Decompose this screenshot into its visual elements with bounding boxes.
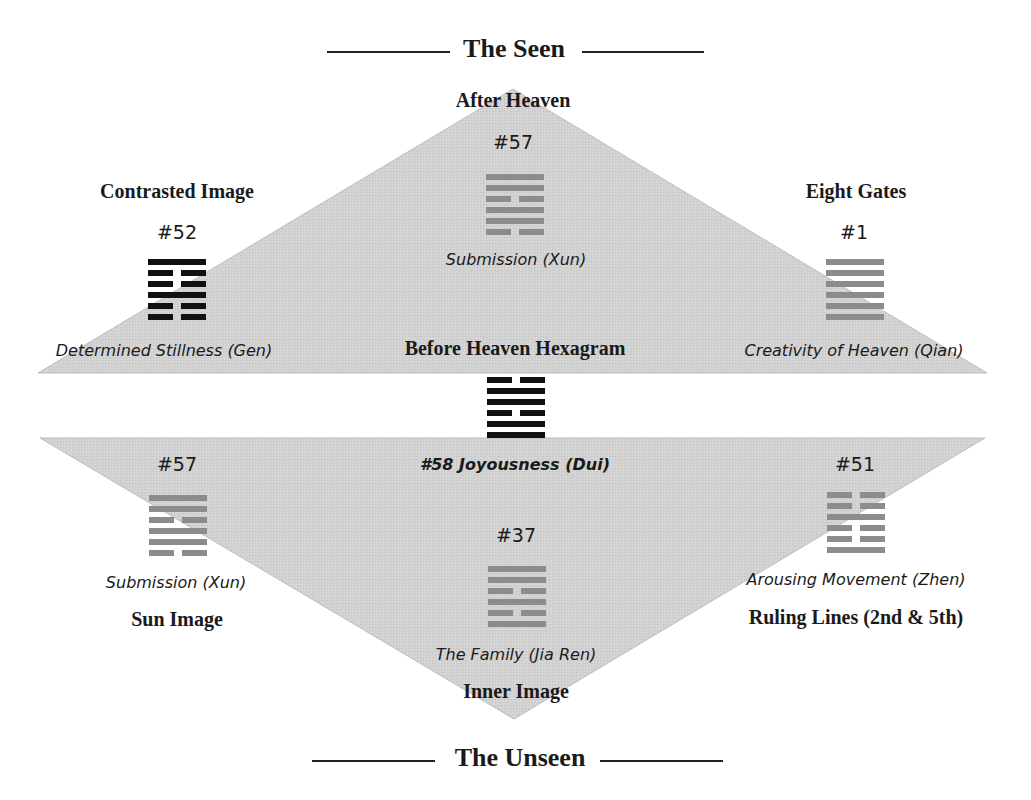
hexagram-name: Arousing Movement (Zhen): [746, 570, 965, 589]
hexagram-number: #57: [493, 131, 533, 153]
inner-image-label: Inner Image: [463, 680, 569, 703]
footer-rule-left: [312, 760, 435, 762]
before-heaven-label: Before Heaven Hexagram: [405, 337, 626, 360]
hexagram-number: #37: [496, 524, 536, 546]
hexagram-57-xun-sun: [149, 495, 207, 561]
header-rule-right: [582, 51, 704, 53]
hexagram-58-dui: [487, 377, 545, 443]
hexagram-51-zhen: [827, 492, 885, 558]
hexagram-37-jia-ren: [488, 566, 546, 632]
hexagram-number: #1: [840, 221, 868, 243]
contrasted-image-label: Contrasted Image: [100, 180, 254, 203]
header-rule-left: [327, 51, 450, 53]
hexagram-57-xun-top: [486, 174, 544, 240]
eight-gates-label: Eight Gates: [806, 180, 907, 203]
hexagram-1-qian: [826, 259, 884, 325]
hexagram-number: #57: [157, 453, 197, 475]
ruling-lines-label: Ruling Lines (2nd & 5th): [749, 606, 964, 629]
before-heaven-caption: #58 Joyousness (Dui): [420, 455, 610, 474]
hexagram-diagram: The Seen The Unseen After Heaven #57 Sub…: [0, 0, 1031, 800]
hexagram-number: #51: [835, 453, 875, 475]
hexagram-name: Submission (Xun): [106, 573, 246, 592]
footer-rule-right: [600, 760, 723, 762]
hexagram-number: #52: [157, 221, 197, 243]
hexagram-name: Submission (Xun): [446, 250, 586, 269]
sun-image-label: Sun Image: [131, 608, 223, 631]
after-heaven-label: After Heaven: [456, 89, 571, 112]
header-title: The Seen: [463, 34, 565, 64]
footer-title: The Unseen: [455, 743, 586, 773]
hexagram-name: Creativity of Heaven (Qian): [744, 341, 963, 360]
hexagram-name: The Family (Jia Ren): [436, 645, 597, 664]
hexagram-52-gen: [148, 259, 206, 325]
hexagram-name: Determined Stillness (Gen): [56, 341, 273, 360]
